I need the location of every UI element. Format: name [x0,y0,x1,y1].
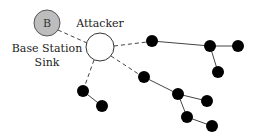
sensor-node [146,35,158,47]
base-station-label: Base Station [12,42,82,55]
link-attacker-n10 [84,60,94,88]
sensor-node [138,71,150,83]
sensor-node [96,100,108,112]
sensor-node [204,40,216,52]
network-diagram: B Base Station Sink Attacker [0,0,257,140]
sensor-node [77,85,89,97]
base-station: B Base Station Sink [12,10,82,69]
sensor-node [181,111,193,123]
attacker-circle [86,33,114,61]
base-station-letter: B [43,17,51,30]
link-n1-n2 [152,41,210,46]
sink-label: Sink [35,56,60,69]
sensor-node [206,120,218,132]
attacker: Attacker [75,17,124,61]
sensor-node [212,66,224,78]
attacker-label: Attacker [75,17,124,30]
sensor-node [201,95,213,107]
link-attacker-n5 [111,56,140,75]
sensor-node [172,88,184,100]
link-attacker-n1 [114,42,147,46]
sensor-node [232,40,244,52]
